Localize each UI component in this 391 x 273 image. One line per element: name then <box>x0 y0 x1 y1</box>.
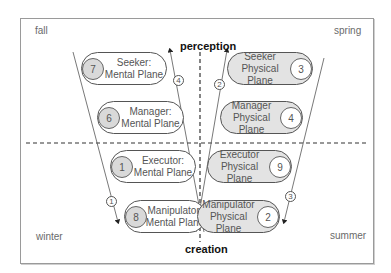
node-number-badge: 9 <box>269 156 291 178</box>
node-plane: Physical Plane <box>221 112 282 136</box>
node-manager-physical: Manager Physical Plane 4 <box>220 101 303 134</box>
node-manager-mental: 6 Manager: Mental Plane <box>97 101 184 134</box>
node-title: Executor: <box>131 155 195 167</box>
node-number-badge: 2 <box>257 206 279 228</box>
node-plane: Mental Plane <box>131 167 195 179</box>
step-marker-1: 1 <box>106 196 117 207</box>
season-fall: fall <box>35 25 48 36</box>
node-number-badge: 4 <box>280 107 302 129</box>
node-plane: Mental Plane <box>118 118 183 130</box>
node-seeker-physical: Seeker Physical Plane 3 <box>227 52 313 85</box>
node-title: Executor <box>208 149 271 161</box>
node-title: Manipulator <box>198 199 259 211</box>
node-title: Manipulator: <box>145 205 205 217</box>
node-executor-mental: 1 Executor: Mental Plane <box>110 150 196 183</box>
node-title: Manager: <box>118 106 183 118</box>
node-plane: Mental Plane <box>102 69 166 81</box>
step-marker-2: 2 <box>214 79 225 90</box>
node-number-badge: 7 <box>82 58 104 80</box>
node-plane: Mental Plane <box>145 217 205 229</box>
season-winter: winter <box>36 231 63 242</box>
node-seeker-mental: 7 Seeker: Mental Plane <box>81 52 167 85</box>
node-title: Seeker: <box>102 57 166 69</box>
axis-creation-label: creation <box>185 243 228 255</box>
node-number-badge: 6 <box>98 107 120 129</box>
node-title: Manager <box>221 100 282 112</box>
node-plane: Physical Plane <box>208 161 271 185</box>
node-plane: Physical Plane <box>228 63 292 87</box>
step-marker-4: 4 <box>173 75 184 86</box>
node-number-badge: 8 <box>125 206 147 228</box>
node-title: Seeker <box>228 51 292 63</box>
season-summer: summer <box>330 230 366 241</box>
node-executor-physical: Executor Physical Plane 9 <box>207 150 292 183</box>
node-number-badge: 1 <box>111 156 133 178</box>
node-manipulator-mental: 8 Manipulator: Mental Plane <box>124 200 206 233</box>
node-plane: Physical Plane <box>198 211 259 235</box>
node-number-badge: 3 <box>290 58 312 80</box>
step-marker-3: 3 <box>285 191 296 202</box>
node-manipulator-physical: Manipulator Physical Plane 2 <box>197 200 280 233</box>
season-spring: spring <box>334 25 361 36</box>
